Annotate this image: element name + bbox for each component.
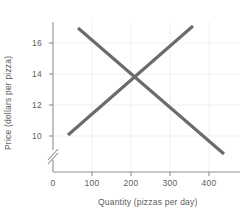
x-tick-label-200: 200 <box>118 178 144 188</box>
y-tick-label-10: 10 <box>22 131 42 141</box>
y-axis-ticks <box>49 43 53 136</box>
demand-curve <box>78 28 224 154</box>
x-axis-ticks <box>92 172 209 176</box>
x-tick-label-100: 100 <box>79 178 105 188</box>
y-axis-title: Price (dollars per pizza) <box>3 56 13 150</box>
x-tick-label-400: 400 <box>196 178 222 188</box>
y-tick-label-14: 14 <box>22 69 42 79</box>
x-tick-label-300: 300 <box>157 178 183 188</box>
x-axis-title: Quantity (pizzas per day) <box>98 197 197 207</box>
supply-demand-chart: 16 14 12 10 0 100 200 300 400 Price (dol… <box>0 0 246 215</box>
y-tick-label-16: 16 <box>22 38 42 48</box>
y-tick-label-12: 12 <box>22 100 42 110</box>
supply-curve <box>68 26 193 135</box>
x-tick-label-0: 0 <box>40 178 66 188</box>
